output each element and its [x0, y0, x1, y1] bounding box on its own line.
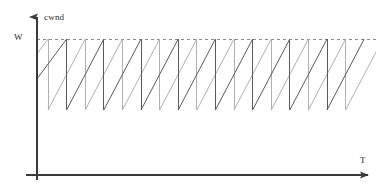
x-axis-label: T — [360, 156, 366, 165]
cwnd-sawtooth-figure: cwnd W T — [0, 0, 388, 193]
y-axis-label: cwnd — [44, 13, 64, 22]
plot-canvas — [0, 0, 388, 193]
threshold-label-w: W — [14, 33, 23, 42]
sawtooth-light-ramps — [0, 39, 383, 110]
